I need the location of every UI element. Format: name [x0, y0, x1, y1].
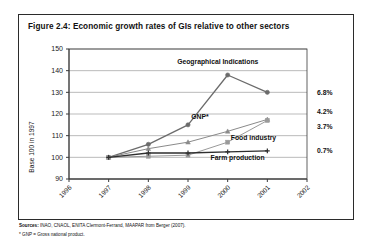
growth-pct-label: 0.7%: [317, 147, 333, 154]
series-label: Geographical Indications: [177, 58, 258, 66]
x-axis-ticks: 1996199719981999200020012002: [57, 179, 311, 199]
series-label: Farm production: [211, 154, 265, 162]
gnp-note: * GNP = Gross national product.: [19, 231, 359, 240]
series-marker: [226, 140, 230, 144]
x-tick-label: 1999: [176, 184, 192, 200]
figure-card: Figure 2.4: Economic growth rates of GIs…: [18, 14, 354, 220]
y-tick-label: 90: [55, 175, 63, 182]
growth-pct-label: 6.8%: [317, 89, 333, 96]
growth-rate-line-chart: 90100110120130140150 1996199719981999200…: [25, 39, 349, 215]
series-marker: [226, 73, 230, 77]
y-tick-label: 120: [51, 110, 63, 117]
series-marker: [265, 119, 269, 123]
x-tick-label: 2001: [256, 184, 272, 200]
series-marker: [265, 90, 269, 94]
sources-label: Sources:: [19, 223, 39, 228]
gridlines-group: [69, 49, 307, 179]
y-axis-ticks: 90100110120130140150: [51, 45, 69, 182]
y-tick-label: 150: [51, 45, 63, 52]
sources-line: Sources: INAO, CNAOL, ENITA Clermont-Fer…: [19, 222, 359, 231]
x-tick-label: 1996: [57, 184, 73, 200]
x-tick-label: 1998: [137, 184, 153, 200]
y-tick-label: 130: [51, 89, 63, 96]
series-line: [109, 75, 268, 157]
sources-text: INAO, CNAOL, ENITA Clermont-Ferrand, MAA…: [40, 223, 186, 228]
growth-pct-label: 4.2%: [317, 108, 333, 115]
y-tick-label: 140: [51, 67, 63, 74]
y-tick-label: 100: [51, 154, 63, 161]
y-tick-label: 110: [52, 132, 63, 139]
data-series-group: [106, 73, 269, 160]
series-marker: [186, 123, 190, 127]
figure-title: Figure 2.4: Economic growth rates of GIs…: [28, 22, 289, 31]
series-label: GNP*: [191, 113, 209, 120]
x-tick-label: 2002: [295, 184, 311, 200]
figure-footer: Sources: INAO, CNAOL, ENITA Clermont-Fer…: [19, 222, 359, 239]
x-tick-label: 2000: [216, 184, 232, 200]
growth-percentage-labels: 6.8%4.2%3.7%0.7%: [317, 89, 333, 154]
chart-area: 90100110120130140150 1996199719981999200…: [25, 39, 349, 215]
x-tick-label: 1997: [97, 184, 113, 200]
series-label: Food industry: [231, 134, 277, 142]
series-marker: [265, 148, 270, 153]
y-axis-title: Base 100 in 1997: [28, 121, 35, 173]
growth-pct-label: 3.7%: [317, 123, 333, 130]
